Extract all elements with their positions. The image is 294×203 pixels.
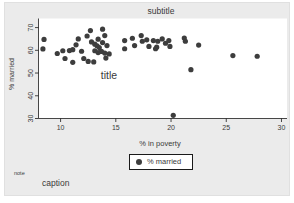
scatter-chart-figure: 10152025303040506070 subtitle title % ma… bbox=[0, 0, 294, 203]
legend-marker-dot-icon bbox=[136, 159, 142, 165]
chart-caption: caption bbox=[42, 178, 69, 188]
y-axis-title: % married bbox=[8, 58, 15, 90]
x-axis-title: % in poverty bbox=[139, 139, 180, 148]
legend-box: % married bbox=[129, 154, 193, 170]
chart-title: title bbox=[101, 69, 117, 81]
chart-note: note bbox=[14, 170, 25, 176]
legend-entry-label: % married bbox=[147, 158, 181, 166]
chart-subtitle: subtitle bbox=[148, 6, 175, 16]
